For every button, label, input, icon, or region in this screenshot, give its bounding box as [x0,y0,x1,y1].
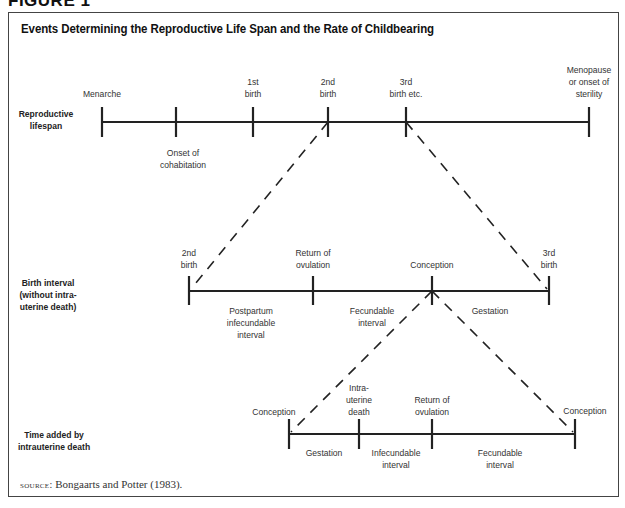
event-bi-2nd-birth: 2nd birth [181,247,198,271]
row-label-birth-interval: Birth interval (without intra- uterine d… [20,277,77,313]
source-text: Bongaarts and Potter (1983). [55,478,182,490]
event-2nd-birth: 2nd birth [320,76,337,100]
row-label-intrauterine: Time added by intrauterine death [18,429,90,453]
segment-bi-fecundable: Fecundable interval [350,305,395,329]
event-3rd-birth: 3rd birth etc. [390,76,423,100]
source-prefix: source: [20,479,53,490]
event-iu-conception-end: Conception [563,405,606,417]
event-bi-return-ovulation: Return of ovulation [295,247,330,271]
event-menarche: Menarche [83,88,121,100]
event-bi-3rd-birth: 3rd birth [541,247,558,271]
source-note: source: Bongaarts and Potter (1983). [20,478,182,490]
event-menopause: Menopause or onset of sterility [567,64,612,100]
event-iu-return-ovulation: Return of ovulation [414,394,449,418]
segment-postpartum-infecundable: Postpartum infecundable interval [227,305,276,341]
segment-iu-infecundable: Infecundable interval [372,447,421,471]
event-iu-intrauterine-death: Intra- uterine death [346,382,372,418]
event-onset-cohabitation: Onset of cohabitation [160,147,206,171]
segment-iu-gestation: Gestation [306,447,343,459]
segment-bi-gestation: Gestation [472,305,509,317]
event-bi-conception: Conception [410,259,453,271]
segment-iu-fecundable: Fecundable interval [478,447,523,471]
event-iu-conception-start: Conception [252,406,295,418]
event-1st-birth: 1st birth [245,76,262,100]
row-label-reproductive: Reproductive lifespan [19,108,74,132]
